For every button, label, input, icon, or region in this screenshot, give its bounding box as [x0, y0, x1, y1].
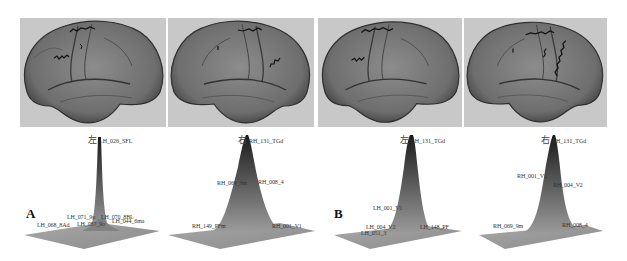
region-label: RH_001_V1	[272, 223, 302, 229]
region-label: LH_071_9p	[67, 214, 95, 220]
brain-panel-a-right	[168, 18, 314, 127]
region-label: RH_001_V1	[517, 173, 547, 179]
region-label: RH_069_9m	[217, 180, 247, 186]
region-label: LH_051_3	[361, 230, 386, 236]
brain-right-hemisphere-b	[464, 18, 607, 127]
region-label: LH_148_PF	[420, 224, 449, 230]
brain-panel-b-right	[464, 18, 607, 127]
region-label: LH_044_6ma	[112, 218, 144, 224]
peak-label: 右RH_131_TGd	[541, 130, 586, 146]
surface-peak	[310, 127, 470, 261]
peak-label: 左LH_131_TGd	[400, 130, 445, 146]
brain-left-hemisphere-b	[318, 18, 462, 127]
surface-peak	[0, 127, 160, 261]
region-label: LH_068_8Ad	[37, 222, 69, 228]
panel-letter-a: A	[26, 206, 35, 222]
peak-plot-b-right: 右RH_131_TGd RH_001_V1 RH_004_V2 RH_069_9…	[465, 127, 627, 261]
region-label: RH_004_V2	[553, 182, 583, 188]
surface-peak	[160, 127, 320, 261]
peak-plot-b-left: 左LH_131_TGd LH_001_V1 LH_004_V2 LH_148_P…	[310, 127, 470, 261]
brain-panel-b-left	[318, 18, 462, 127]
region-label: RH_008_4	[258, 179, 284, 185]
region-label: RH_149_PFm	[192, 223, 226, 229]
brain-panel-a-left	[20, 18, 166, 127]
surface-peak	[465, 127, 627, 261]
region-label: RH_008_4	[562, 222, 588, 228]
brain-left-hemisphere-a	[20, 18, 166, 127]
peak-label: 左LH_026_SFL	[88, 130, 132, 146]
region-label: LH_087_9a	[77, 221, 105, 227]
region-label: LH_001_V1	[373, 205, 402, 211]
peak-plot-a-right: 右RH_131_TGd RH_069_9m RH_008_4 RH_149_PF…	[160, 127, 320, 261]
panel-letter-b: B	[334, 206, 343, 222]
peak-label: 右RH_131_TGd	[238, 130, 283, 146]
region-label: RH_069_9m	[493, 223, 523, 229]
brain-right-hemisphere-a	[168, 18, 314, 127]
peak-plot-a-left: 左LH_026_SFL LH_071_9p LH_070_8BL LH_068_…	[0, 127, 160, 261]
